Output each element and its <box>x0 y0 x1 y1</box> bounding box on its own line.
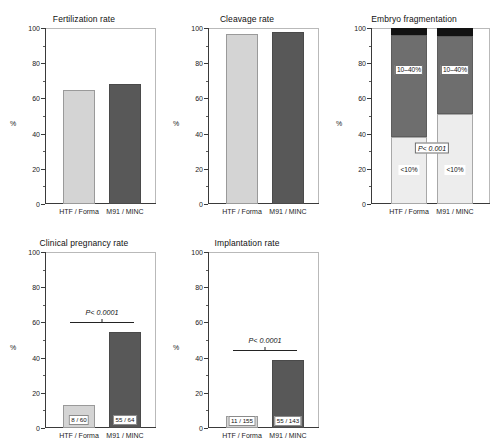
stacked-bar-htf-forma: 10–40% <10% <box>391 28 427 204</box>
y-tick-label-60: 60 <box>195 95 203 102</box>
x-tick-label-m91-minc: M91 / MINC <box>106 432 143 439</box>
y-axis-label-implantation: % <box>173 344 179 351</box>
panel-title-fragmentation: Embryo fragmentation <box>334 14 494 24</box>
panel-embryo-fragmentation: Embryo fragmentation % 0 20 40 60 80 100 <box>334 14 494 224</box>
panel-cleavage-rate: Cleavage rate % 0 20 40 60 80 100 <box>171 14 323 224</box>
y-axis-label-pregnancy: % <box>10 344 16 351</box>
y-tick-minor-50 <box>369 116 372 117</box>
x-tick-label-htf-forma: HTF / Forma <box>222 208 262 215</box>
significance-bracket-pregnancy: P< 0.0001 <box>70 308 134 326</box>
bracket-tick <box>265 347 266 350</box>
y-tick-label-40: 40 <box>32 354 40 361</box>
y-axis <box>208 252 209 428</box>
figure-multi-panel-bar-charts: Fertilization rate % 0 20 40 60 80 100 <box>0 0 498 445</box>
y-tick-minor-50 <box>206 116 209 117</box>
y-tick-minor-30 <box>206 375 209 376</box>
y-tick-40 <box>367 134 371 135</box>
y-tick-label-40: 40 <box>195 130 203 137</box>
y-tick-100 <box>367 28 371 29</box>
y-tick-0 <box>204 204 208 205</box>
y-axis <box>208 28 209 204</box>
y-tick-minor-30 <box>43 151 46 152</box>
y-tick-label-40: 40 <box>32 130 40 137</box>
y-tick-80 <box>41 63 45 64</box>
y-tick-label-100: 100 <box>354 25 366 32</box>
segment-label-mid: 10–40% <box>441 65 469 75</box>
y-tick-label-40: 40 <box>358 130 366 137</box>
y-tick-80 <box>367 63 371 64</box>
segment-high-fragmentation <box>437 28 473 36</box>
y-tick-label-100: 100 <box>28 25 40 32</box>
y-axis-label-fertilization: % <box>10 120 16 127</box>
y-tick-minor-90 <box>206 270 209 271</box>
y-tick-minor-70 <box>43 81 46 82</box>
y-tick-label-80: 80 <box>32 284 40 291</box>
panel-title-pregnancy: Clinical pregnancy rate <box>8 238 160 248</box>
y-tick-minor-70 <box>206 305 209 306</box>
plot-area-fragmentation: 0 20 40 60 80 100 10–40% <10% <box>371 28 490 204</box>
y-tick-minor-90 <box>206 46 209 47</box>
plot-area-implantation: 0 20 40 60 80 100 11 / 155 55 / 143 P< 0… <box>208 252 319 428</box>
panel-implantation-rate: Implantation rate % 0 20 40 60 80 100 <box>171 238 323 445</box>
y-tick-60 <box>41 322 45 323</box>
y-tick-minor-50 <box>43 340 46 341</box>
bracket-tick <box>102 319 103 322</box>
segment-label-low: <10% <box>398 165 419 175</box>
y-tick-20 <box>204 169 208 170</box>
y-tick-label-0: 0 <box>199 201 203 208</box>
bracket-line <box>233 350 297 351</box>
y-tick-minor-90 <box>43 270 46 271</box>
significance-bracket-implantation: P< 0.0001 <box>233 336 297 354</box>
y-tick-label-80: 80 <box>32 60 40 67</box>
bar-m91-minc <box>272 32 304 204</box>
y-tick-60 <box>41 98 45 99</box>
x-tick-label-m91-minc: M91 / MINC <box>436 208 473 215</box>
bar-value-m91-minc: 55 / 143 <box>274 416 301 426</box>
y-tick-0 <box>41 204 45 205</box>
y-tick-minor-50 <box>43 116 46 117</box>
y-axis <box>45 252 46 428</box>
y-tick-minor-10 <box>43 410 46 411</box>
y-tick-label-80: 80 <box>195 60 203 67</box>
y-tick-minor-50 <box>206 340 209 341</box>
y-tick-0 <box>367 204 371 205</box>
y-tick-100 <box>41 252 45 253</box>
y-axis-label-cleavage: % <box>173 120 179 127</box>
p-value-annotation-implantation: P< 0.0001 <box>249 336 282 345</box>
bar-htf-forma <box>226 34 258 204</box>
y-tick-minor-70 <box>206 81 209 82</box>
y-tick-minor-90 <box>43 46 46 47</box>
x-tick-label-htf-forma: HTF / Forma <box>59 432 99 439</box>
y-tick-minor-30 <box>206 151 209 152</box>
bar-m91-minc <box>109 332 141 428</box>
p-value-annotation-fragmentation: P< 0.001 <box>415 143 449 154</box>
x-tick-label-m91-minc: M91 / MINC <box>269 208 306 215</box>
x-tick-label-m91-minc: M91 / MINC <box>269 432 306 439</box>
p-value-annotation-pregnancy: P< 0.0001 <box>86 308 119 317</box>
segment-low-fragmentation <box>437 114 473 204</box>
segment-label-low: <10% <box>444 165 465 175</box>
y-tick-80 <box>204 287 208 288</box>
y-tick-100 <box>204 28 208 29</box>
plot-area-pregnancy: 0 20 40 60 80 100 8 / 60 55 / 64 P< 0.00… <box>45 252 156 428</box>
y-tick-label-20: 20 <box>195 389 203 396</box>
y-tick-80 <box>41 287 45 288</box>
y-tick-label-20: 20 <box>32 165 40 172</box>
y-tick-label-80: 80 <box>195 284 203 291</box>
y-tick-label-40: 40 <box>195 354 203 361</box>
y-tick-minor-10 <box>206 410 209 411</box>
y-tick-20 <box>367 169 371 170</box>
bar-htf-forma <box>63 90 95 204</box>
y-tick-label-100: 100 <box>191 25 203 32</box>
y-tick-0 <box>204 428 208 429</box>
segment-high-fragmentation <box>391 28 427 35</box>
bracket-line <box>70 322 134 323</box>
stacked-bar-m91-minc: 10–40% <10% <box>437 28 473 204</box>
y-tick-minor-90 <box>369 46 372 47</box>
y-tick-label-20: 20 <box>195 165 203 172</box>
y-tick-60 <box>367 98 371 99</box>
bar-m91-minc <box>109 84 141 204</box>
plot-area-fertilization: 0 20 40 60 80 100 HTF / Forma M91 / MINC <box>45 28 156 204</box>
panel-title-cleavage: Cleavage rate <box>171 14 323 24</box>
bar-value-m91-minc: 55 / 64 <box>113 415 137 425</box>
